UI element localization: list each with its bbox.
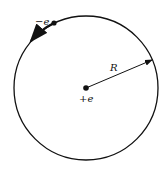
electron-dot — [51, 20, 56, 25]
radius-arrow — [86, 60, 152, 88]
radius-label: R — [109, 62, 118, 73]
bohr-orbit-diagram: −e +e R — [0, 0, 168, 170]
electron-label: −e — [35, 16, 49, 27]
nucleus-label: +e — [79, 93, 93, 104]
